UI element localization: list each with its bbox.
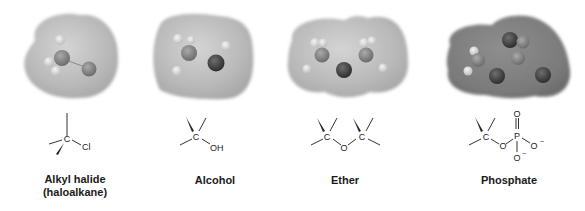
panel-alkyl-halide: C Cl Alkyl halide (haloalkane) xyxy=(0,0,150,211)
structure-alcohol: C OH xyxy=(172,110,252,160)
electrostatic-map-phosphate xyxy=(430,0,585,110)
atom-c-left: C xyxy=(324,132,331,142)
atom-p: P xyxy=(514,131,520,141)
atom-o-bridge: O xyxy=(499,141,506,151)
label-line1: Phosphate xyxy=(439,174,579,187)
atom-cl: Cl xyxy=(82,142,91,152)
panel-ether: C O C Ether xyxy=(280,0,440,211)
label-line1: Alcohol xyxy=(145,174,285,187)
atom-c: C xyxy=(483,132,490,142)
label-line1: Alkyl halide xyxy=(5,173,145,186)
label-line2: (haloalkane) xyxy=(5,186,145,199)
atom-oh: OH xyxy=(210,143,224,153)
atom-o-double: O xyxy=(513,109,520,119)
atom-o: O xyxy=(340,143,347,153)
panel-phosphate: C O P O O − O − Phosphate xyxy=(430,0,585,211)
electrostatic-map-ether xyxy=(280,0,440,110)
atom-c: C xyxy=(193,132,200,142)
electrostatic-map-alkyl-halide xyxy=(0,0,150,110)
electrostatic-map-alcohol xyxy=(140,0,290,110)
structure-ether: C O C xyxy=(308,110,388,160)
structure-alkyl-halide: C Cl xyxy=(30,110,110,160)
atom-o-bottom: O xyxy=(513,153,520,163)
label-phosphate: Phosphate xyxy=(439,174,579,187)
atom-c: C xyxy=(64,134,71,144)
structure-phosphate: C O P O O − O − xyxy=(460,105,550,165)
atom-c-right: C xyxy=(359,132,366,142)
atom-o-right: O xyxy=(530,141,537,151)
label-ether: Ether xyxy=(275,174,415,187)
label-alcohol: Alcohol xyxy=(145,174,285,187)
charge-bottom: − xyxy=(522,150,526,157)
charge-right: − xyxy=(540,138,544,145)
panel-alcohol: C OH Alcohol xyxy=(140,0,290,211)
label-line1: Ether xyxy=(275,174,415,187)
label-alkyl-halide: Alkyl halide (haloalkane) xyxy=(5,173,145,199)
